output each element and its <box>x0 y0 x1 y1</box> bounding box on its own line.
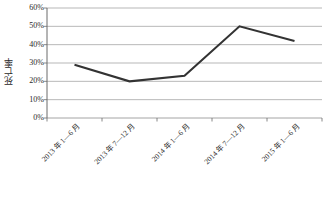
y-axis-tick-label: 30% <box>29 59 44 67</box>
x-axis-tick-label: 2013 年 7—12 月 <box>86 122 136 172</box>
x-axis-tick-label: 2015 年 1—6 月 <box>251 122 301 172</box>
x-axis-tick-label: 2013 年 1—6 月 <box>31 122 81 172</box>
x-axis-tick-label: 2014 年 7—12 月 <box>196 122 246 172</box>
x-axis-tick-marks <box>44 8 323 122</box>
y-axis-tick-label: 20% <box>29 77 44 85</box>
y-axis-title: 死亡率 <box>0 42 16 102</box>
y-axis-tick-label: 10% <box>29 96 44 104</box>
y-axis-tick-label: 50% <box>29 22 44 30</box>
y-axis-tick-labels: 0%10%20%30%40%50%60% <box>16 8 46 118</box>
y-axis-tick-label: 60% <box>29 4 44 12</box>
mortality-rate-line-chart: 死亡率 0%10%20%30%40%50%60% 2013 年 1—6 月201… <box>0 0 328 202</box>
plot-svg <box>47 8 322 118</box>
y-axis-tick-label: 40% <box>29 41 44 49</box>
x-axis-tick-labels: 2013 年 1—6 月2013 年 7—12 月2014 年 1—6 月201… <box>47 118 322 202</box>
plot-area <box>47 8 322 118</box>
x-axis-tick-label: 2014 年 1—6 月 <box>141 122 191 172</box>
data-series-line <box>75 26 295 81</box>
y-axis-tick-label: 0% <box>33 114 44 122</box>
gridlines <box>47 8 322 118</box>
